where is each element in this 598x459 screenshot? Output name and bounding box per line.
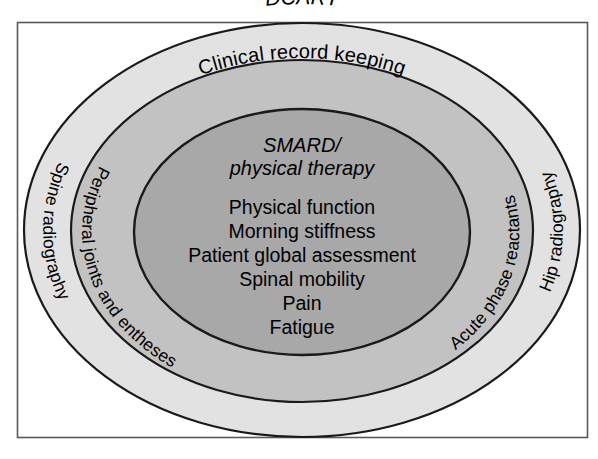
inner-item-pain: Pain [282,292,321,314]
inner-item-spinal-mobility: Spinal mobility [239,268,365,290]
inner-item-patient-global-assessment: Patient global assessment [188,244,416,266]
inner-item-physical-function: Physical function [229,196,375,218]
inner-item-morning-stiffness: Morning stiffness [228,220,375,242]
inner-heading-line-1: SMARD/ [263,134,343,156]
inner-item-fatigue: Fatigue [269,316,334,338]
inner-heading-line-2: physical therapy [229,157,376,179]
ring-outer-top-label: DCART [264,0,342,10]
concentric-ellipse-diagram: DCART Spine radiography Hip radiography … [0,0,598,459]
figure-root: DCART Spine radiography Hip radiography … [0,0,598,459]
